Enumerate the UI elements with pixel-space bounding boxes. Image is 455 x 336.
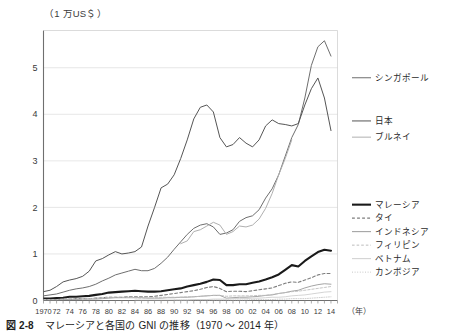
x-axis-tick-label: 04 [262, 307, 270, 316]
legend-label-japan: 日本 [375, 115, 393, 126]
y-axis-tick-label: 4 [32, 109, 37, 119]
legend-label-indonesia: インドネシア [375, 227, 429, 237]
legend-label-malaysia: マレーシア [375, 200, 420, 210]
x-axis-tick-label: 00 [235, 307, 243, 316]
y-axis-tick-label: 1 [32, 249, 37, 259]
legend-label-brunei: ブルネイ [375, 131, 411, 142]
series-line-brunei [181, 140, 292, 244]
x-axis-tick-label: 96 [209, 307, 217, 316]
x-axis-tick-label: 92 [183, 307, 191, 316]
x-axis-tick-label: 74 [66, 307, 74, 316]
caption-number: 図 2-8 [6, 320, 34, 331]
caption-text: マレーシアと各国の GNI の推移（1970 〜 2014 年） [45, 320, 284, 331]
gni-line-chart: 0123451970727476788082848688909294969800… [0, 0, 455, 336]
x-axis-tick-label: 84 [131, 307, 139, 316]
x-axis-tick-label: 14 [327, 307, 335, 316]
x-axis-tick-label: 02 [248, 307, 256, 316]
legend-label-cambodia: カンボジア [375, 267, 420, 277]
x-axis-tick-label: 72 [52, 307, 60, 316]
series-line-singapore [44, 41, 331, 296]
x-axis-tick-label: 82 [118, 307, 126, 316]
y-axis-tick-label: 2 [32, 203, 37, 213]
x-axis-tick-label: 10 [301, 307, 309, 316]
x-axis-tick-label: 08 [288, 307, 296, 316]
series-line-japan [44, 78, 331, 292]
x-axis-tick-label: 12 [314, 307, 322, 316]
y-axis-tick-label: 5 [32, 63, 37, 73]
legend-label-singapore: シンガポール [375, 73, 429, 83]
x-axis-tick-label: 78 [92, 307, 100, 316]
x-axis-tick-label: 06 [275, 307, 283, 316]
x-axis-tick-label: 86 [144, 307, 152, 316]
x-axis-tick-label: 98 [222, 307, 230, 316]
y-axis-tick-label: 3 [32, 156, 37, 166]
x-axis-unit-label: （年） [347, 306, 371, 316]
y-axis-tick-label: 0 [32, 296, 37, 306]
legend-label-thailand: タイ [375, 213, 393, 223]
x-axis-tick-label: 88 [157, 307, 165, 316]
figure-caption: 図 2-8 マレーシアと各国の GNI の推移（1970 〜 2014 年） [6, 317, 284, 332]
x-axis-tick-label: 1970 [35, 307, 51, 316]
legend-label-philippines: フィリピン [375, 240, 420, 250]
x-axis-tick-label: 94 [196, 307, 204, 316]
legend-label-vietnam: ベトナム [375, 254, 411, 264]
x-axis-tick-label: 80 [105, 307, 113, 316]
figure-container: （1 万US＄） 0123451970727476788082848688909… [0, 0, 455, 336]
x-axis-tick-label: 90 [170, 307, 178, 316]
x-axis-tick-label: 76 [79, 307, 87, 316]
